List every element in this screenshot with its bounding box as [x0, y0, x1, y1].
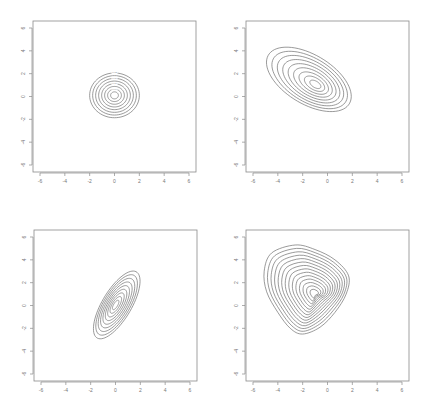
x-tick-label: -4 [276, 178, 281, 184]
y-tick-label: 2 [233, 72, 239, 75]
x-tick-label: 2 [351, 387, 354, 393]
contour-plot-4: -6-4-20246-6-4-20246 [213, 209, 428, 414]
y-tick-label: 2 [20, 72, 26, 75]
x-tick-label: 4 [376, 178, 379, 184]
y-tick-label: -4 [20, 140, 26, 145]
x-tick-label: -6 [38, 178, 43, 184]
y-tick-label: 4 [20, 49, 26, 52]
y-tick-label: -4 [233, 140, 239, 145]
y-tick-label: 4 [233, 258, 239, 261]
y-tick-label: 6 [21, 235, 27, 238]
x-tick-label: -6 [39, 387, 44, 393]
contour-line [108, 89, 122, 101]
contour-line [310, 289, 318, 298]
y-tick-label: -2 [20, 117, 26, 122]
y-tick-label: 6 [233, 26, 239, 29]
contour-label: 0.06 [112, 77, 117, 80]
y-tick-label: 0 [233, 95, 239, 98]
contour-label: 0.14 [112, 88, 117, 91]
x-tick-label: 0 [113, 178, 116, 184]
x-tick-label: -4 [64, 387, 69, 393]
y-tick-label: 2 [233, 281, 239, 284]
y-tick-label: 4 [21, 258, 27, 261]
contour-label: 0.10 [112, 82, 117, 85]
y-tick-label: -2 [233, 326, 239, 331]
x-tick-label: 2 [138, 178, 141, 184]
y-tick-label: -6 [21, 372, 27, 377]
plot-frame [33, 21, 196, 172]
contour-plot-3: -6-4-20246-6-4-20246 [1, 209, 216, 414]
contour-line [266, 47, 351, 111]
contour-line [101, 282, 133, 328]
contour-line [310, 80, 321, 88]
x-tick-label: 4 [164, 387, 167, 393]
x-tick-label: 6 [401, 387, 404, 393]
x-tick-label: 6 [188, 178, 191, 184]
x-tick-label: -2 [300, 387, 305, 393]
y-tick-label: 6 [20, 26, 26, 29]
plot-area: -6-4-20246-6-4-202460.020.060.100.14 [0, 0, 215, 205]
plot-area: -6-4-20246-6-4-20246 [1, 209, 216, 414]
y-tick-label: -6 [233, 372, 239, 377]
y-tick-label: 0 [233, 304, 239, 307]
plot-area: -6-4-20246-6-4-20246 [213, 0, 428, 205]
contour-line [299, 72, 328, 94]
y-tick-label: 0 [21, 304, 27, 307]
y-tick-label: 4 [233, 49, 239, 52]
y-tick-label: -6 [233, 163, 239, 168]
plot-frame [34, 230, 197, 381]
contour-plot-1: -6-4-20246-6-4-202460.020.060.100.14 [0, 0, 215, 205]
x-tick-label: 4 [376, 387, 379, 393]
plot-area: -6-4-20246-6-4-20246 [213, 209, 428, 414]
x-tick-label: -6 [251, 387, 256, 393]
x-tick-label: 2 [351, 178, 354, 184]
y-tick-label: -4 [233, 349, 239, 354]
x-tick-label: 0 [326, 387, 329, 393]
x-tick-label: 0 [326, 178, 329, 184]
y-tick-label: -6 [20, 163, 26, 168]
contour-line [111, 92, 119, 99]
plot-frame [246, 230, 409, 381]
x-tick-label: -2 [88, 387, 93, 393]
x-tick-label: 2 [139, 387, 142, 393]
x-tick-label: 6 [189, 387, 192, 393]
y-tick-label: -2 [21, 326, 27, 331]
contour-line [99, 81, 131, 110]
x-tick-label: -2 [87, 178, 92, 184]
contour-plot-2: -6-4-20246-6-4-20246 [213, 0, 428, 205]
x-tick-label: 4 [163, 178, 166, 184]
contour-line [93, 271, 140, 339]
x-tick-label: 0 [114, 387, 117, 393]
contour-line [271, 252, 345, 329]
x-tick-label: -4 [276, 387, 281, 393]
y-tick-label: 0 [20, 95, 26, 98]
x-tick-label: -6 [251, 178, 256, 184]
x-tick-label: 6 [401, 178, 404, 184]
y-tick-label: -4 [21, 349, 27, 354]
x-tick-label: -2 [300, 178, 305, 184]
y-tick-label: 6 [233, 235, 239, 238]
x-tick-label: -4 [63, 178, 68, 184]
y-tick-label: 2 [21, 281, 27, 284]
contour-label: 0.02 [112, 71, 117, 74]
contour-line [98, 278, 135, 331]
y-tick-label: -2 [233, 117, 239, 122]
